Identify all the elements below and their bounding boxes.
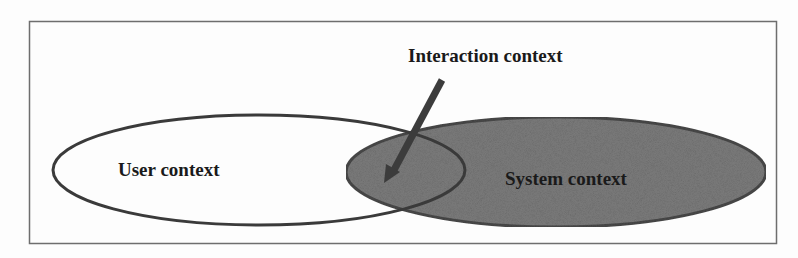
context-venn-diagram: Interaction context User context System … — [0, 0, 798, 258]
system-context-label: System context — [505, 168, 628, 189]
user-context-label: User context — [118, 159, 220, 180]
interaction-context-label: Interaction context — [408, 45, 563, 66]
